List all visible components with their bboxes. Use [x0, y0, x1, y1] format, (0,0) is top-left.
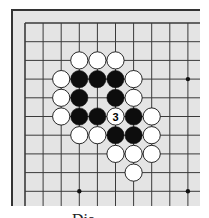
white-stone [53, 108, 70, 125]
black-stone [71, 89, 88, 106]
white-stone [125, 145, 142, 162]
white-stone: 3 [107, 108, 124, 125]
go-board: 3 [0, 0, 209, 218]
star-point [186, 77, 190, 81]
white-stone [143, 145, 160, 162]
black-stone [71, 71, 88, 88]
star-point [77, 189, 81, 193]
black-stone [107, 89, 124, 106]
white-stone [143, 127, 160, 144]
white-stone [107, 52, 124, 69]
black-stone [71, 108, 88, 125]
black-stone [125, 108, 142, 125]
move-number-label: 3 [112, 111, 118, 123]
black-stone [89, 71, 106, 88]
black-stone [89, 108, 106, 125]
white-stone [107, 145, 124, 162]
black-stone [125, 127, 142, 144]
black-stone [107, 127, 124, 144]
white-stone [53, 89, 70, 106]
white-stone [89, 52, 106, 69]
black-stone [107, 71, 124, 88]
white-stone [125, 164, 142, 181]
white-stone [125, 89, 142, 106]
white-stone [71, 127, 88, 144]
board-background [11, 9, 200, 206]
white-stone [53, 71, 70, 88]
white-stone [71, 52, 88, 69]
white-stone [89, 127, 106, 144]
white-stone [125, 71, 142, 88]
white-stone [143, 108, 160, 125]
star-point [186, 189, 190, 193]
diagram-caption: Dia [72, 212, 95, 218]
